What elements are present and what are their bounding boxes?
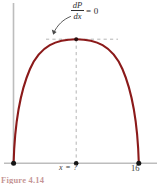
x-axis-label-16: 16 <box>131 163 140 173</box>
derivative-numerator: dP <box>72 1 83 10</box>
figure-container: dP dx = 0 x = ? 16 Figure 4.14 <box>0 0 161 184</box>
derivative-equals-zero: = 0 <box>86 6 98 16</box>
derivative-fraction: dP dx <box>71 1 84 20</box>
figure-caption: Figure 4.14 <box>1 175 81 184</box>
point-maximum <box>74 37 78 41</box>
x-axis-label-unknown: x = ? <box>59 163 77 172</box>
plot-area <box>0 0 161 184</box>
point-left-root <box>11 161 16 166</box>
annotation-arrow <box>54 17 71 33</box>
annotation-arrowhead-icon <box>52 30 57 35</box>
derivative-denominator: dx <box>72 12 82 21</box>
derivative-annotation: dP dx = 0 <box>71 1 98 20</box>
